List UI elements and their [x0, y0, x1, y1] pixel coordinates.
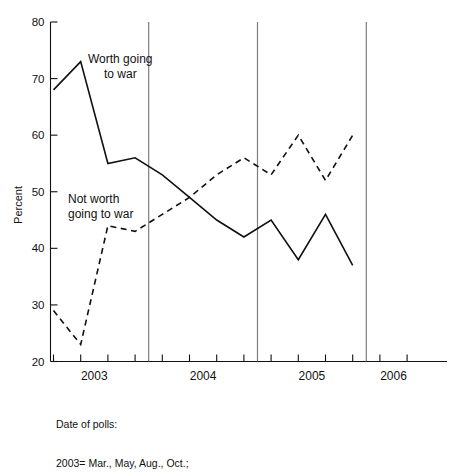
y-tick-label: 80	[32, 16, 45, 28]
x-axis-year-label: 2003	[81, 369, 108, 383]
annotation-worth-going-to-war-line1: Worth going	[88, 52, 152, 66]
y-tick-label: 60	[32, 129, 45, 141]
poll-line-chart: Percent 20304050607080 2003200420052006 …	[0, 0, 464, 474]
x-axis-year-label: 2006	[380, 369, 407, 383]
x-axis-year-label: 2004	[190, 369, 217, 383]
y-tick-label: 20	[32, 356, 45, 368]
series-line-not-worth-going-to-war	[54, 135, 353, 344]
y-axis-ticks: 20304050607080	[32, 16, 58, 368]
annotation-not-worth-going-to-war-line1: Not worth	[68, 192, 119, 206]
y-tick-label: 30	[32, 299, 45, 311]
y-axis-label: Percent	[12, 186, 24, 224]
footnote-heading: Date of polls:	[56, 418, 197, 431]
x-axis-ticks	[54, 355, 408, 362]
annotation-not-worth-going-to-war-line2: going to war	[68, 207, 133, 221]
y-tick-label: 70	[32, 73, 45, 85]
footnote-block: Date of polls: 2003= Mar., May, Aug., Oc…	[56, 391, 197, 474]
x-axis-year-label: 2005	[299, 369, 326, 383]
year-separator-lines	[149, 22, 367, 362]
x-axis-year-labels: 2003200420052006	[81, 369, 407, 383]
y-tick-label: 40	[32, 242, 45, 254]
footnote-line-2003: 2003= Mar., May, Aug., Oct.;	[56, 457, 197, 470]
y-tick-label: 50	[32, 186, 45, 198]
annotation-worth-going-to-war-line2: to war	[104, 67, 137, 81]
series-line-worth-going-to-war	[54, 62, 353, 266]
